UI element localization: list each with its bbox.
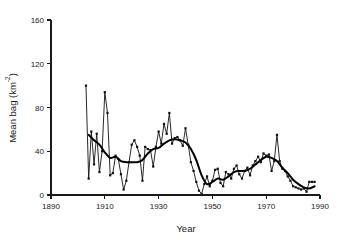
data-point-marker — [112, 172, 114, 174]
data-point-marker — [152, 165, 154, 167]
data-point-marker — [106, 112, 108, 114]
x-tick-label: 1910 — [96, 202, 114, 211]
data-point-marker — [300, 188, 302, 190]
data-point-marker — [314, 181, 316, 183]
data-point-marker — [166, 133, 168, 135]
data-point-marker — [295, 186, 297, 188]
data-point-marker — [262, 152, 264, 154]
data-point-marker — [171, 142, 173, 144]
data-point-marker — [292, 185, 294, 187]
data-point-marker — [230, 177, 232, 179]
data-point-marker — [222, 185, 224, 187]
x-axis-title: Year — [176, 223, 195, 234]
y-tick-label: 120 — [31, 60, 45, 69]
data-point-marker — [201, 193, 203, 195]
chart-figure: 04080120160 189019101930195019701990 Mea… — [0, 0, 344, 243]
x-axis: 189019101930195019701990 — [42, 195, 329, 211]
data-point-marker — [141, 180, 143, 182]
data-point-marker — [289, 180, 291, 182]
data-point-marker — [176, 136, 178, 138]
series-annual-markers — [85, 85, 316, 195]
chart-plot-area: 04080120160 189019101930195019701990 Mea… — [0, 0, 344, 243]
data-point-marker — [104, 91, 106, 93]
data-point-marker — [85, 85, 87, 87]
x-axis-ticks: 189019101930195019701990 — [42, 195, 329, 211]
data-point-marker — [93, 163, 95, 165]
data-point-marker — [192, 170, 194, 172]
x-tick-label: 1930 — [150, 202, 168, 211]
data-point-marker — [182, 145, 184, 147]
x-tick-label: 1990 — [311, 202, 329, 211]
data-point-marker — [225, 171, 227, 173]
data-point-marker — [233, 168, 235, 170]
data-point-marker — [120, 173, 122, 175]
data-point-marker — [276, 134, 278, 136]
y-tick-label: 40 — [35, 147, 44, 156]
data-point-marker — [268, 153, 270, 155]
data-point-marker — [190, 161, 192, 163]
data-series-group — [85, 85, 316, 195]
data-point-marker — [123, 188, 125, 190]
data-point-marker — [109, 174, 111, 176]
data-point-marker — [144, 146, 146, 148]
data-point-marker — [90, 130, 92, 132]
data-point-marker — [254, 160, 256, 162]
data-point-marker — [236, 164, 238, 166]
data-point-marker — [184, 127, 186, 129]
data-point-marker — [168, 112, 170, 114]
data-point-marker — [297, 187, 299, 189]
data-point-marker — [195, 181, 197, 183]
y-axis-ticks: 04080120160 — [31, 16, 51, 200]
y-tick-label: 80 — [35, 104, 44, 113]
data-point-marker — [139, 155, 141, 157]
data-point-marker — [270, 170, 272, 172]
data-point-marker — [217, 168, 219, 170]
data-point-marker — [305, 191, 307, 193]
data-point-marker — [98, 171, 100, 173]
y-tick-label: 160 — [31, 16, 45, 25]
data-point-marker — [287, 175, 289, 177]
y-axis-title: Mean bag (km-2) — [4, 73, 19, 143]
data-point-marker — [96, 133, 98, 135]
y-axis: 04080120160 — [31, 16, 51, 200]
x-tick-label: 1950 — [204, 202, 222, 211]
data-point-marker — [125, 180, 127, 182]
data-point-marker — [198, 190, 200, 192]
data-point-marker — [209, 185, 211, 187]
data-point-marker — [131, 144, 133, 146]
data-point-marker — [257, 156, 259, 158]
data-point-marker — [219, 182, 221, 184]
y-tick-label: 0 — [40, 191, 45, 200]
data-point-marker — [88, 177, 90, 179]
x-tick-label: 1890 — [42, 202, 60, 211]
data-point-marker — [311, 181, 313, 183]
data-point-marker — [158, 130, 160, 132]
data-point-marker — [163, 123, 165, 125]
data-point-marker — [206, 175, 208, 177]
data-point-marker — [249, 174, 251, 176]
data-point-marker — [241, 177, 243, 179]
data-point-marker — [147, 148, 149, 150]
data-point-marker — [133, 139, 135, 141]
data-point-marker — [246, 167, 248, 169]
x-tick-label: 1970 — [257, 202, 275, 211]
data-point-marker — [308, 181, 310, 183]
data-point-marker — [136, 146, 138, 148]
data-point-marker — [214, 169, 216, 171]
data-point-marker — [238, 173, 240, 175]
series-annual-line — [86, 86, 315, 194]
